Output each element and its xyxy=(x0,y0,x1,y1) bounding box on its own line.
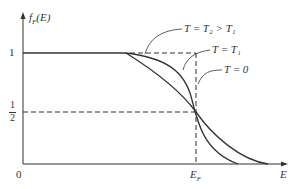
leader-t0 xyxy=(198,70,222,84)
y-tick-half-den: 2 xyxy=(10,112,15,123)
fermi-dirac-plot xyxy=(0,0,297,189)
y-tick-one: 1 xyxy=(9,46,15,58)
x-axis-label: E xyxy=(280,168,287,180)
x-tick-fermi: EF xyxy=(190,168,201,183)
y-tick-half-num: 1 xyxy=(10,99,15,110)
x-axis-arrow xyxy=(281,162,288,167)
y-axis-label: fF(E) xyxy=(29,11,50,26)
legend-t1: T = T₁ xyxy=(212,43,241,55)
leader-t2 xyxy=(145,29,182,54)
legend-t0: T = 0 xyxy=(224,63,248,75)
legend-t2: T = T₂ > T₁ xyxy=(184,22,236,34)
y-axis-arrow xyxy=(21,12,26,19)
origin-label: 0 xyxy=(16,168,22,180)
